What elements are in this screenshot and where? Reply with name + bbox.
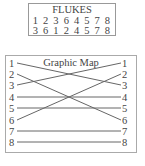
left-label: 5 xyxy=(9,103,14,114)
graphic-map-diagram: 1234567812345678 xyxy=(0,0,145,166)
left-label: 1 xyxy=(9,58,14,69)
right-label: 4 xyxy=(122,92,128,103)
left-label: 7 xyxy=(9,126,14,137)
left-label: 2 xyxy=(9,69,14,80)
left-label: 4 xyxy=(9,92,15,103)
right-label: 8 xyxy=(122,137,127,148)
right-label: 3 xyxy=(122,80,127,91)
left-label: 3 xyxy=(9,80,14,91)
right-label: 6 xyxy=(122,115,127,126)
right-label: 1 xyxy=(122,58,127,69)
right-label: 7 xyxy=(122,126,127,137)
left-label: 8 xyxy=(9,137,14,148)
right-label: 2 xyxy=(122,69,127,80)
right-label: 5 xyxy=(122,103,127,114)
left-label: 6 xyxy=(9,115,14,126)
